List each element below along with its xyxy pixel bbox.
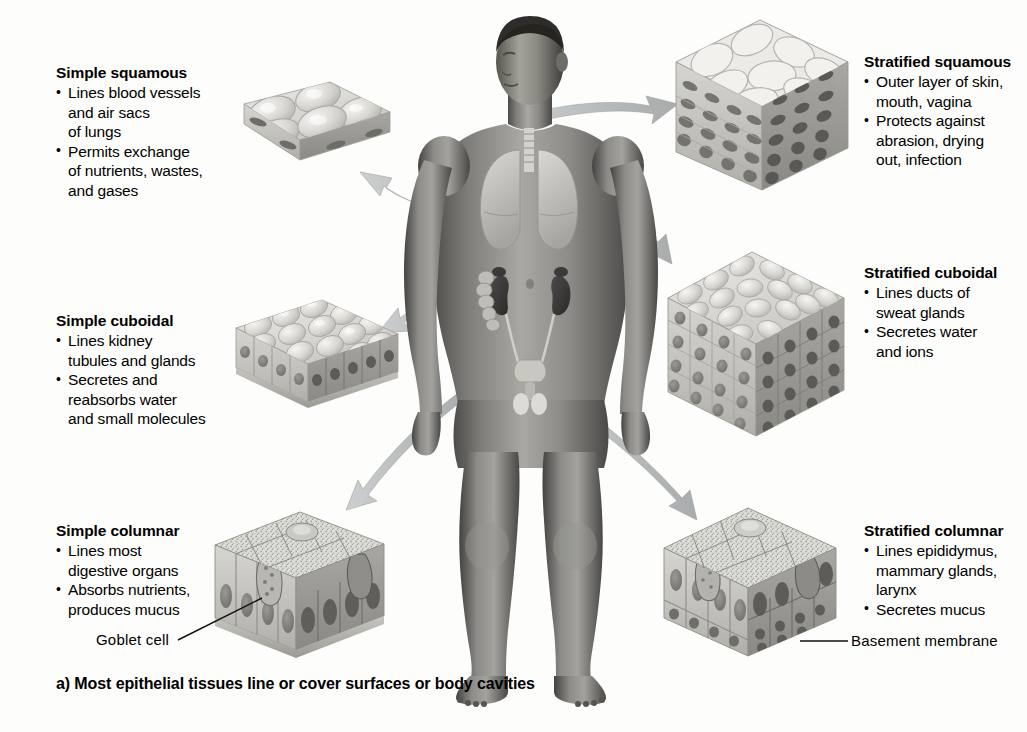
bullet-line: Lines most bbox=[68, 541, 266, 561]
panel-bullets-stratified-columnar: Lines epididymus, mammary glands, larynx… bbox=[864, 541, 1027, 619]
tissue-block-simple-squamous bbox=[244, 77, 390, 160]
tissue-block-stratified-cuboidal bbox=[668, 252, 844, 436]
bullet-line: Lines blood vessels bbox=[68, 83, 256, 103]
human-figure bbox=[404, 16, 658, 707]
panel-bullets-stratified-cuboidal: Lines ducts of sweat glands Secretes wat… bbox=[864, 283, 1027, 361]
panel-stratified-cuboidal: Stratified cuboidal Lines ducts of sweat… bbox=[864, 263, 1027, 361]
panel-simple-squamous: Simple squamous Lines blood vessels and … bbox=[56, 63, 256, 200]
list-item: Lines most digestive organs bbox=[56, 541, 266, 580]
panel-title-stratified-squamous: Stratified squamous bbox=[864, 52, 1027, 71]
panel-bullets-simple-squamous: Lines blood vessels and air sacs of lung… bbox=[56, 83, 256, 200]
label-goblet-cell: Goblet cell bbox=[96, 631, 169, 648]
bullet-line: sweat glands bbox=[876, 303, 1027, 323]
bullet-line: digestive organs bbox=[68, 561, 266, 581]
list-item: Secretes water and ions bbox=[864, 322, 1027, 361]
tissue-block-simple-cuboidal bbox=[236, 293, 398, 408]
bullet-line: Secretes and bbox=[68, 370, 256, 390]
arrow-to-simple-columnar bbox=[346, 387, 470, 510]
list-item: Permits exchange of nutrients, wastes, a… bbox=[56, 142, 256, 201]
bullet-line: produces mucus bbox=[68, 600, 266, 620]
bullet-line: and gases bbox=[68, 181, 256, 201]
list-item: Absorbs nutrients, produces mucus bbox=[56, 580, 266, 619]
bullet-line: Lines kidney bbox=[68, 331, 256, 351]
bullet-line: abrasion, drying bbox=[876, 131, 1027, 151]
tissue-block-stratified-columnar bbox=[664, 508, 848, 668]
label-basement-membrane: Basement membrane bbox=[851, 632, 998, 649]
panel-bullets-simple-cuboidal: Lines kidney tubules and glands Secretes… bbox=[56, 331, 256, 429]
bullet-line: Lines ducts of bbox=[876, 283, 1027, 303]
panel-simple-columnar: Simple columnar Lines most digestive org… bbox=[56, 521, 266, 619]
bullet-line: mouth, vagina bbox=[876, 92, 1027, 112]
list-item: Outer layer of skin, mouth, vagina bbox=[864, 72, 1027, 111]
bullet-line: larynx bbox=[876, 580, 1027, 600]
bullet-line: out, infection bbox=[876, 150, 1027, 170]
bullet-line: mammary glands, bbox=[876, 561, 1027, 581]
bullet-line: of nutrients, wastes, bbox=[68, 161, 256, 181]
panel-simple-cuboidal: Simple cuboidal Lines kidney tubules and… bbox=[56, 311, 256, 429]
bullet-line: Absorbs nutrients, bbox=[68, 580, 266, 600]
bullet-line: and air sacs bbox=[68, 103, 256, 123]
bullet-line: and small molecules bbox=[68, 409, 256, 429]
panel-title-stratified-columnar: Stratified columnar bbox=[864, 521, 1027, 540]
bullet-line: reabsorbs water bbox=[68, 390, 256, 410]
bullet-line: Secretes mucus bbox=[876, 600, 1027, 620]
bullet-line: Protects against bbox=[876, 111, 1027, 131]
tissue-block-stratified-squamous bbox=[675, 18, 848, 190]
panel-stratified-squamous: Stratified squamous Outer layer of skin,… bbox=[864, 52, 1027, 170]
list-item: Lines kidney tubules and glands bbox=[56, 331, 256, 370]
list-item: Secretes mucus bbox=[864, 600, 1027, 620]
bullet-line: Secretes water bbox=[876, 322, 1027, 342]
bullet-line: and ions bbox=[876, 342, 1027, 362]
panel-bullets-simple-columnar: Lines most digestive organs Absorbs nutr… bbox=[56, 541, 266, 619]
bullet-line: tubules and glands bbox=[68, 351, 256, 371]
list-item: Lines ducts of sweat glands bbox=[864, 283, 1027, 322]
panel-stratified-columnar: Stratified columnar Lines epididymus, ma… bbox=[864, 521, 1027, 619]
panel-title-stratified-cuboidal: Stratified cuboidal bbox=[864, 263, 1027, 282]
panel-title-simple-squamous: Simple squamous bbox=[56, 63, 256, 82]
panel-bullets-stratified-squamous: Outer layer of skin, mouth, vagina Prote… bbox=[864, 72, 1027, 170]
list-item: Lines epididymus, mammary glands, larynx bbox=[864, 541, 1027, 600]
list-item: Lines blood vessels and air sacs of lung… bbox=[56, 83, 256, 142]
panel-title-simple-columnar: Simple columnar bbox=[56, 521, 266, 540]
list-item: Secretes and reabsorbs water and small m… bbox=[56, 370, 256, 429]
bullet-line: Permits exchange bbox=[68, 142, 256, 162]
panel-title-simple-cuboidal: Simple cuboidal bbox=[56, 311, 256, 330]
list-item: Protects against abrasion, drying out, i… bbox=[864, 111, 1027, 170]
figure-caption: a) Most epithelial tissues line or cover… bbox=[56, 675, 535, 693]
figure-root: Simple squamous Lines blood vessels and … bbox=[0, 0, 1027, 732]
bullet-line: Lines epididymus, bbox=[876, 541, 1027, 561]
bullet-line: of lungs bbox=[68, 122, 256, 142]
bullet-line: Outer layer of skin, bbox=[876, 72, 1027, 92]
